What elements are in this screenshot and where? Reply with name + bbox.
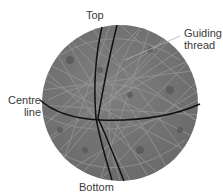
- label-guiding-thread: Guiding thread: [184, 27, 222, 51]
- label-centre-line-line2: line: [3, 106, 41, 118]
- label-bottom: Bottom: [79, 181, 114, 193]
- label-centre-line: Centre line: [3, 94, 41, 118]
- label-guiding-thread-line1: Guiding: [184, 27, 222, 39]
- label-centre-line-line1: Centre: [3, 94, 41, 106]
- label-top: Top: [86, 9, 104, 21]
- label-guiding-thread-line2: thread: [184, 39, 222, 51]
